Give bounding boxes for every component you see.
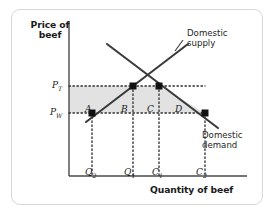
x-tick-c1-base: C	[152, 167, 159, 177]
y-axis-title-line2: beef	[39, 29, 62, 40]
y-axis-title: Price of beef	[24, 20, 76, 41]
area-label-a: A	[85, 104, 92, 114]
point-demand-at-tariff-price	[156, 83, 163, 90]
x-tick-c1: C1	[152, 167, 163, 180]
x-tick-q1: Q1	[124, 167, 135, 180]
area-label-c: C	[147, 104, 154, 114]
price-tick-world: PW	[50, 107, 62, 120]
area-label-d: D	[175, 104, 182, 114]
price-tick-tariff-sub: T	[58, 85, 62, 92]
x-axis-title: Quantity of beef	[150, 185, 233, 195]
x-tick-c2-base: C	[196, 167, 203, 177]
domestic-demand-label-line1: Domestic	[202, 130, 243, 140]
x-tick-q1-sub: 1	[131, 172, 135, 179]
domestic-demand-label-line2: demand	[202, 140, 237, 150]
domestic-demand-label: Domestic demand	[202, 131, 243, 150]
x-tick-c2: C2	[196, 167, 207, 180]
point-supply-at-tariff-price	[130, 83, 137, 90]
domestic-supply-label-line2: supply	[187, 38, 215, 48]
domestic-supply-label: Domestic supply	[187, 29, 228, 48]
area-label-b: B	[121, 104, 128, 114]
price-tick-world-sub: W	[56, 112, 62, 119]
domestic-supply-label-line1: Domestic	[187, 28, 228, 38]
point-demand-at-world-price	[202, 110, 209, 117]
price-tick-tariff: PT	[52, 80, 62, 93]
x-tick-q2-sub: 2	[92, 172, 96, 179]
x-tick-c1-sub: 1	[159, 172, 163, 179]
x-tick-c2-sub: 2	[203, 172, 207, 179]
x-tick-q2: Q2	[85, 167, 96, 180]
